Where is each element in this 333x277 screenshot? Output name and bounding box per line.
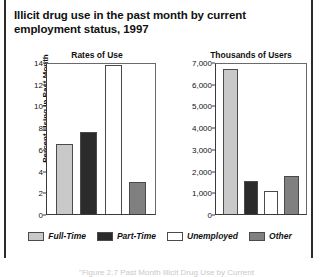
bar-group-thousands-of-users bbox=[223, 64, 299, 214]
legend-label: Other bbox=[269, 231, 292, 241]
chart-panel-thousands-of-users: Thousands of Users 01,0002,0003,0004,000… bbox=[163, 50, 311, 228]
figure-caption: "Figure 2.7 Past Month Illicit Drug Use … bbox=[0, 268, 333, 277]
y-tick-label: 6,000 bbox=[192, 80, 212, 89]
y-tick-label: 5,000 bbox=[192, 102, 212, 111]
y-tick-label: 12 bbox=[34, 80, 43, 89]
chart-title-rates-of-use: Rates of Use bbox=[8, 50, 160, 60]
legend-item-other[interactable]: Other bbox=[249, 231, 292, 241]
axis-area-rates-of-use: 02468101214 bbox=[24, 63, 160, 215]
bar-group-rates-of-use bbox=[56, 64, 147, 214]
y-tick-label: 4,000 bbox=[192, 124, 212, 133]
left-edge-rule bbox=[4, 0, 6, 258]
legend-swatch-icon bbox=[249, 232, 265, 241]
legend-label: Part-Time bbox=[117, 231, 156, 241]
legend-item-part-time[interactable]: Part-Time bbox=[97, 231, 156, 241]
bar-part-time bbox=[244, 181, 258, 214]
legend-swatch-icon bbox=[167, 232, 183, 241]
legend-swatch-icon bbox=[97, 232, 113, 241]
bar-unemployed bbox=[105, 65, 122, 214]
charts-row: Rates of Use Percent Using in Past Month… bbox=[8, 50, 308, 228]
bar-part-time bbox=[80, 132, 97, 215]
legend-label: Full-Time bbox=[48, 231, 86, 241]
y-tick-label: 7,000 bbox=[192, 59, 212, 68]
legend-label: Unemployed bbox=[187, 231, 238, 241]
y-tick-label: 14 bbox=[34, 59, 43, 68]
bar-full-time bbox=[223, 69, 237, 214]
bar-other bbox=[129, 182, 146, 214]
bar-unemployed bbox=[264, 191, 278, 214]
y-tick-label: 3,000 bbox=[192, 145, 212, 154]
plot-area-rates-of-use bbox=[46, 63, 156, 215]
legend-item-full-time[interactable]: Full-Time bbox=[28, 231, 86, 241]
page-title: Illicit drug use in the past month by cu… bbox=[14, 8, 304, 36]
legend-item-unemployed[interactable]: Unemployed bbox=[167, 231, 238, 241]
chart-legend: Full-TimePart-TimeUnemployedOther bbox=[10, 231, 310, 241]
y-tick-label: 2,000 bbox=[192, 167, 212, 176]
y-tick-label: 10 bbox=[34, 102, 43, 111]
legend-swatch-icon bbox=[28, 232, 44, 241]
plot-area-thousands-of-users bbox=[215, 63, 307, 215]
chart-panel-rates-of-use: Rates of Use Percent Using in Past Month… bbox=[8, 50, 160, 228]
bar-other bbox=[284, 176, 298, 214]
chart-title-thousands-of-users: Thousands of Users bbox=[163, 50, 311, 60]
bar-full-time bbox=[56, 144, 73, 214]
y-tick-label: 1,000 bbox=[192, 189, 212, 198]
axis-area-thousands-of-users: 01,0002,0003,0004,0005,0006,0007,000 bbox=[183, 63, 311, 215]
figure-container: Illicit drug use in the past month by cu… bbox=[0, 0, 333, 277]
right-edge-rule bbox=[311, 0, 313, 258]
